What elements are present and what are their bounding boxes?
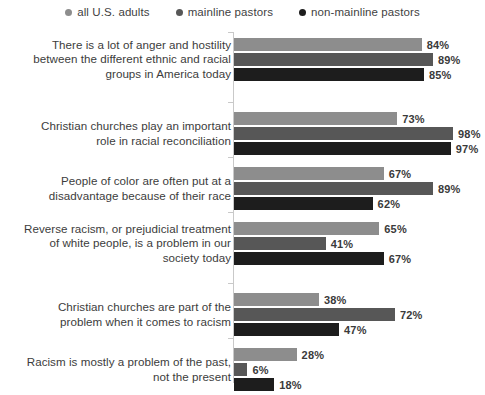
category-label-line: between the different ethnic and racial [9, 52, 231, 66]
bar[interactable] [234, 53, 433, 66]
bar[interactable] [234, 142, 451, 155]
legend-swatch-icon [176, 9, 183, 16]
axis-tick [228, 32, 234, 33]
bar[interactable] [234, 68, 424, 81]
chart-legend: all U.S. adultsmainline pastorsnon-mainl… [0, 6, 485, 18]
bar-value-label: 62% [378, 198, 401, 210]
bar-value-label: 89% [438, 183, 461, 195]
legend-item-0[interactable]: all U.S. adults [65, 6, 149, 18]
category-label: Christian churches play an importantrole… [9, 119, 231, 147]
bar[interactable] [234, 127, 453, 140]
bar-value-label: 65% [384, 223, 407, 235]
axis-tick [228, 212, 234, 213]
category-label-line: society today [9, 251, 231, 265]
legend-item-label: all U.S. adults [77, 6, 149, 18]
bar[interactable] [234, 252, 384, 265]
bar-value-label: 38% [324, 294, 347, 306]
bar[interactable] [234, 182, 433, 195]
bar[interactable] [234, 348, 297, 361]
bar[interactable] [234, 197, 373, 210]
category-label-line: problem when it comes to racism [9, 315, 231, 329]
bar[interactable] [234, 293, 319, 306]
bar-value-label: 28% [302, 349, 325, 361]
bar-value-label: 67% [389, 168, 412, 180]
legend-item-1[interactable]: mainline pastors [176, 6, 273, 18]
bar-value-label: 85% [429, 69, 452, 81]
category-label: There is a lot of anger and hostilitybet… [9, 38, 231, 81]
category-label: Christian churches are part of theproble… [9, 300, 231, 328]
plot-area: There is a lot of anger and hostilitybet… [0, 30, 485, 392]
legend-item-label: mainline pastors [188, 6, 273, 18]
bar[interactable] [234, 323, 339, 336]
bar-value-label: 84% [427, 39, 450, 51]
bar[interactable] [234, 237, 326, 250]
bar-value-label: 18% [279, 379, 302, 391]
category-label-line: Reverse racism, or prejudicial treatment [9, 222, 231, 236]
category-label-line: of white people, is a problem in our [9, 236, 231, 250]
category-label: Reverse racism, or prejudicial treatment… [9, 222, 231, 265]
bar-value-label: 73% [402, 113, 425, 125]
bar-value-label: 72% [400, 309, 423, 321]
category-label: Racism is mostly a problem of the past,n… [9, 355, 231, 383]
bar-value-label: 47% [344, 324, 367, 336]
bar[interactable] [234, 222, 379, 235]
axis-tick [228, 338, 234, 339]
category-label-line: There is a lot of anger and hostility [9, 38, 231, 52]
bar-value-label: 98% [458, 128, 481, 140]
category-label: People of color are often put at adisadv… [9, 174, 231, 202]
bar-value-label: 89% [438, 54, 461, 66]
bar[interactable] [234, 308, 395, 321]
bar-value-label: 67% [389, 253, 412, 265]
bar[interactable] [234, 112, 397, 125]
category-label-line: disadvantage because of their race [9, 189, 231, 203]
category-label-line: Racism is mostly a problem of the past, [9, 355, 231, 369]
category-label-line: not the present [9, 370, 231, 384]
bar[interactable] [234, 167, 384, 180]
bar-value-label: 41% [331, 238, 354, 250]
bar-value-label: 6% [252, 364, 268, 376]
bar[interactable] [234, 378, 274, 391]
legend-item-label: non-mainline pastors [311, 6, 420, 18]
category-label-line: role in racial reconciliation [9, 134, 231, 148]
legend-swatch-icon [299, 9, 306, 16]
bar-value-label: 97% [456, 143, 479, 155]
category-label-line: People of color are often put at a [9, 174, 231, 188]
category-label-line: Christian churches are part of the [9, 300, 231, 314]
legend-swatch-icon [65, 9, 72, 16]
legend-item-2[interactable]: non-mainline pastors [299, 6, 420, 18]
category-label-line: groups in America today [9, 67, 231, 81]
axis-tick [228, 102, 234, 103]
axis-tick [228, 157, 234, 158]
category-label-line: Christian churches play an important [9, 119, 231, 133]
axis-tick [228, 283, 234, 284]
bar[interactable] [234, 38, 422, 51]
grouped-bar-chart: all U.S. adultsmainline pastorsnon-mainl… [0, 0, 485, 395]
bar[interactable] [234, 363, 247, 376]
